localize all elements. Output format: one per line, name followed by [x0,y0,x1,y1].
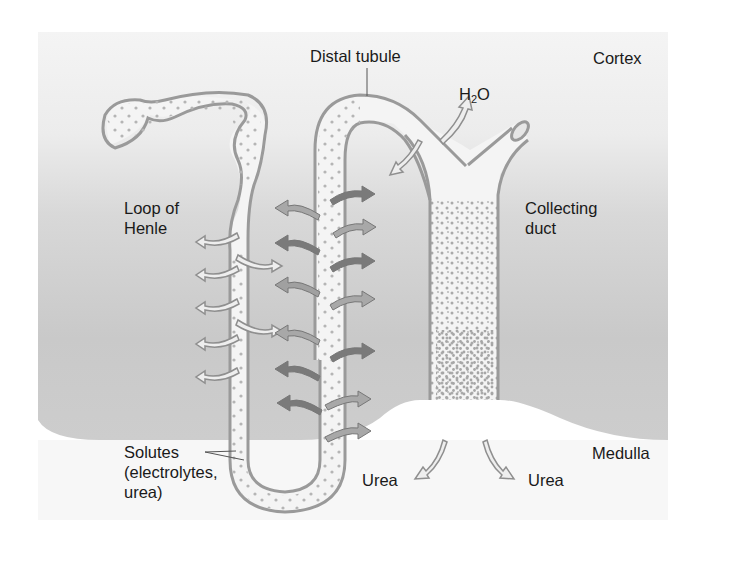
label-medulla: Medulla [592,443,650,463]
label-h2o: H2O [459,84,490,109]
label-collecting-duct: Collecting duct [525,198,597,238]
label-loop-line1: Loop of [124,198,179,218]
label-distal-tubule: Distal tubule [310,46,401,66]
label-urea-left: Urea [362,470,398,490]
label-solutes-line1: Solutes [124,442,218,462]
label-solutes-line2: (electrolytes, [124,462,218,482]
label-urea-right: Urea [528,470,564,490]
label-cortex: Cortex [593,48,642,68]
h2o-h: H [459,85,471,103]
label-collecting-line2: duct [525,218,597,238]
label-solutes: Solutes (electrolytes, urea) [124,442,218,502]
label-loop-of-henle: Loop of Henle [124,198,179,238]
h2o-o: O [477,85,490,103]
label-collecting-line1: Collecting [525,198,597,218]
label-loop-line2: Henle [124,218,179,238]
label-solutes-line3: urea) [124,482,218,502]
